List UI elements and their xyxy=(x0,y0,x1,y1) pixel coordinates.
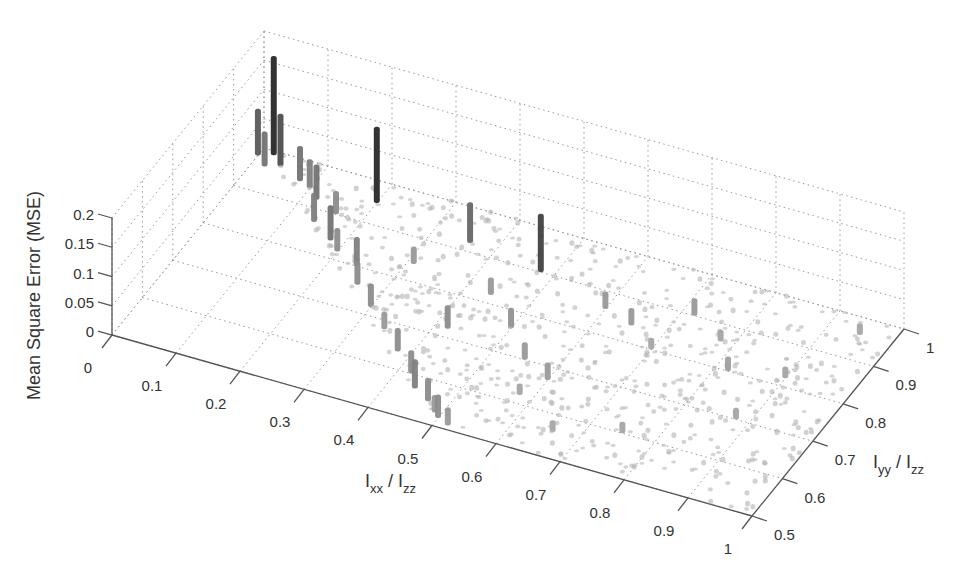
data-bar xyxy=(832,365,837,368)
data-bar xyxy=(271,56,277,155)
data-bar xyxy=(612,452,617,458)
data-bar xyxy=(815,419,820,425)
data-bar xyxy=(586,375,591,380)
data-bar xyxy=(709,291,714,295)
data-bar xyxy=(683,397,688,401)
data-bar xyxy=(498,283,503,289)
data-bar xyxy=(438,220,443,225)
data-bar xyxy=(262,131,268,166)
data-bar xyxy=(418,256,423,260)
data-bar xyxy=(474,385,479,391)
x-tick-label: 0.8 xyxy=(590,504,611,521)
data-bar xyxy=(561,358,566,362)
data-bar xyxy=(535,289,540,294)
x-tick-label: 0 xyxy=(84,359,92,376)
data-bar xyxy=(773,397,778,400)
data-bar xyxy=(579,405,584,409)
data-bar xyxy=(612,384,617,388)
data-bar xyxy=(662,350,667,356)
y-tick-label: 0.9 xyxy=(896,376,917,393)
data-bar xyxy=(466,273,471,278)
data-bar xyxy=(354,261,360,284)
data-bar xyxy=(757,379,762,383)
data-bar xyxy=(605,386,610,389)
data-bar xyxy=(832,378,837,384)
data-bar xyxy=(586,397,591,402)
data-bar xyxy=(558,377,563,382)
data-bar xyxy=(762,302,767,305)
data-bar xyxy=(682,323,687,326)
data-bar xyxy=(592,245,597,248)
data-bar xyxy=(408,198,413,201)
data-bar xyxy=(482,334,487,337)
data-bar xyxy=(644,382,649,387)
data-bar xyxy=(411,213,416,218)
data-bar xyxy=(561,372,566,377)
data-bar xyxy=(493,315,498,320)
data-bar xyxy=(722,390,727,395)
data-bar xyxy=(797,450,802,455)
data-bar xyxy=(744,507,749,511)
x-tick-label: 0.5 xyxy=(398,450,419,467)
data-bar xyxy=(716,376,721,379)
data-bar xyxy=(515,424,520,428)
data-bar xyxy=(605,442,610,445)
data-bar xyxy=(604,389,609,393)
data-bar xyxy=(628,430,633,434)
data-bar xyxy=(773,401,778,406)
data-bar xyxy=(695,407,700,412)
data-bar xyxy=(666,449,671,455)
data-bar xyxy=(568,348,573,351)
data-bar xyxy=(753,479,758,484)
data-bar xyxy=(504,304,509,308)
data-bar xyxy=(618,462,623,465)
data-bar xyxy=(526,282,531,287)
data-bar xyxy=(349,237,354,240)
data-bar xyxy=(585,313,590,317)
data-bar xyxy=(723,327,728,330)
data-bar xyxy=(703,388,708,392)
data-bar xyxy=(590,439,595,444)
data-bar xyxy=(382,329,387,332)
data-bar xyxy=(502,401,507,404)
data-bar xyxy=(734,355,739,358)
data-bar xyxy=(477,334,482,338)
data-bar xyxy=(405,253,410,257)
data-bar xyxy=(420,292,425,295)
data-bar xyxy=(730,428,735,431)
data-bar xyxy=(556,364,561,369)
data-bar xyxy=(701,401,706,406)
data-bar xyxy=(581,431,586,434)
data-bar xyxy=(297,146,303,181)
data-bar xyxy=(431,362,436,365)
data-bar xyxy=(517,383,523,395)
data-bar xyxy=(397,265,402,269)
data-bar xyxy=(401,273,406,276)
data-bar xyxy=(856,341,861,345)
data-bar xyxy=(507,433,512,438)
data-bar xyxy=(376,203,381,206)
data-bar xyxy=(278,165,283,168)
data-bar xyxy=(359,212,364,215)
data-bar xyxy=(640,416,645,419)
data-bar xyxy=(458,327,463,331)
data-bar xyxy=(494,383,499,386)
data-bar xyxy=(521,426,526,429)
data-bar xyxy=(697,276,702,281)
data-bar xyxy=(405,294,410,300)
data-bar xyxy=(703,347,708,350)
data-bar xyxy=(645,428,650,433)
data-bar xyxy=(342,225,347,228)
data-bar xyxy=(616,286,621,290)
data-bar xyxy=(715,445,720,449)
data-bar xyxy=(787,301,792,304)
data-bar xyxy=(571,325,576,329)
data-bar xyxy=(540,316,545,319)
data-bar xyxy=(699,353,704,356)
data-bar xyxy=(325,195,330,199)
data-bar xyxy=(639,346,644,349)
data-bar xyxy=(778,393,783,399)
data-bar xyxy=(483,418,488,423)
data-bar xyxy=(455,252,460,257)
data-bar xyxy=(671,267,676,271)
